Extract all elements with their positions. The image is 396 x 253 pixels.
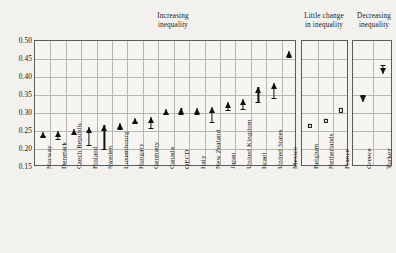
open-square-marker	[339, 108, 343, 112]
x-axis-label-germany: Germany	[152, 142, 160, 169]
x-axis-label-turkey: Turkey	[385, 148, 393, 169]
x-axis-label-japan: Japan	[229, 152, 237, 169]
arrow-tail-cap	[210, 122, 215, 123]
arrow-head-down-icon	[360, 96, 366, 102]
arrow-tail-cap	[256, 102, 261, 103]
arrow-head-up-icon	[194, 108, 200, 114]
x-axis-label-hungary: Hungary	[137, 143, 145, 169]
x-axis-label-czech-republic: Czech Republic	[75, 122, 83, 169]
marker-increasing-italy	[193, 41, 201, 167]
arrow-head-up-icon	[117, 123, 123, 129]
x-axis-label-france: France	[343, 149, 351, 169]
x-axis-label-mexico: Mexico	[291, 147, 299, 169]
arrow-tail-cap	[287, 57, 292, 58]
marker-increasing-japan	[224, 41, 232, 167]
arrow-head-up-icon	[225, 102, 231, 108]
x-axis-label-greece: Greece	[365, 148, 373, 169]
x-axis-label-united-states: United States	[276, 129, 284, 169]
x-axis-label-sweden: Sweden	[106, 146, 114, 169]
x-axis-label-finland: Finland	[91, 146, 99, 169]
x-axis-label-luxembourg: Luxembourg	[122, 131, 130, 169]
x-axis-label-oecd: OECD	[183, 149, 191, 169]
arrow-head-up-icon	[101, 125, 107, 131]
y-axis-tick-label: 0.20	[19, 144, 32, 153]
arrow-head-up-icon	[40, 132, 46, 138]
x-axis-label-denmark: Denmark	[60, 142, 68, 169]
y-axis-tick-label: 0.50	[19, 36, 32, 45]
marker-increasing-oecd	[177, 41, 185, 167]
y-axis-tick-label: 0.15	[19, 162, 32, 171]
gridline-vertical	[373, 41, 374, 165]
panel-title-increasing: Increasing inequality	[118, 12, 228, 30]
x-axis-label-canada: Canada	[168, 147, 176, 169]
arrow-head-up-icon	[209, 107, 215, 113]
open-square-marker	[323, 119, 327, 123]
y-axis-tick-label: 0.25	[19, 126, 32, 135]
arrow-tail-cap	[241, 109, 246, 110]
arrow-head-up-icon	[255, 87, 261, 93]
x-axis-label-united-kingdom: United Kingdom	[245, 119, 253, 169]
arrow-head-up-icon	[271, 83, 277, 89]
arrow-tail-cap	[194, 114, 199, 115]
gridline-vertical	[266, 41, 267, 165]
x-axis-label-israel: Israel	[260, 153, 268, 169]
arrow-head-up-icon	[240, 99, 246, 105]
gridline-vertical	[189, 41, 190, 165]
arrow-tail-cap	[179, 114, 184, 115]
arrow-tail-cap	[271, 98, 276, 99]
arrow-tail-cap	[56, 139, 61, 140]
arrow-tail-cap	[148, 128, 153, 129]
arrow-head-up-icon	[178, 108, 184, 114]
y-axis-tick-label: 0.35	[19, 90, 32, 99]
gridline-vertical	[205, 41, 206, 165]
plot-panel-increasing	[34, 40, 296, 166]
y-axis-tick-label: 0.45	[19, 54, 32, 63]
arrow-tail-cap	[381, 65, 386, 66]
arrow-head-down-icon	[380, 68, 386, 74]
open-square-marker	[308, 124, 312, 128]
gini-inequality-chart: Increasing inequality Little change in i…	[0, 0, 396, 253]
x-axis-label-belgium: Belgium	[312, 144, 320, 169]
x-axis-label-new-zealand: New Zealand	[214, 130, 222, 169]
gridline-vertical	[235, 41, 236, 165]
y-axis-tick-label: 0.40	[19, 72, 32, 81]
panel-title-little-change: Little change in inequality	[297, 12, 351, 30]
panel-title-decreasing: Decreasing inequality	[352, 12, 396, 30]
arrow-head-up-icon	[148, 117, 154, 123]
arrow-tail-cap	[225, 110, 230, 111]
y-axis: 0.500.450.400.350.300.250.200.15	[0, 0, 34, 253]
arrow-head-up-icon	[286, 51, 292, 57]
arrow-head-up-icon	[55, 131, 61, 137]
plot-panel-little-change	[301, 40, 348, 166]
x-axis-label-netherlands: Netherlands	[327, 133, 335, 169]
x-axis-label-italy: Italy	[199, 155, 207, 169]
arrow-head-up-icon	[132, 118, 138, 124]
x-axis-label-norway: Norway	[45, 145, 53, 169]
marker-increasing-israel	[254, 41, 262, 167]
arrow-head-up-icon	[86, 127, 92, 133]
arrow-head-up-icon	[163, 109, 169, 115]
y-axis-tick-label: 0.30	[19, 108, 32, 117]
